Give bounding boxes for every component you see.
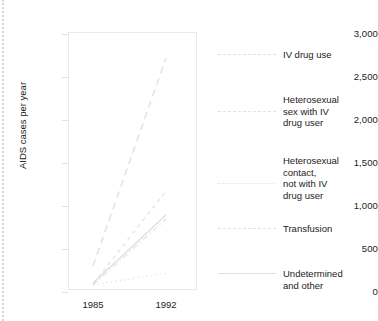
legend-swatch-medium-dash-icon [218,111,276,112]
legend-swatch-dash-dot-icon [218,228,276,229]
series-line-undetermined-and-other [93,215,166,283]
legend-label-undetermined-and-other: Undetermined and other [283,268,378,291]
x-tick-label-1992: 1992 [136,299,196,310]
x-tick-label-1985: 1985 [63,299,123,310]
legend-label-heterosexual-contact-not-with-iv-drug-user: Heterosexual contact, not with IV drug u… [283,155,378,201]
legend-swatch-solid-icon [218,273,276,274]
series-line-iv-drug-use [93,58,166,266]
series-line-heterosexual-sex-with-iv-drug-user [93,191,166,284]
data-series-layer [68,32,197,290]
legend-label-heterosexual-sex-with-iv-drug-user: Heterosexual sex with IV drug user [283,94,378,129]
legend: IV drug use Heterosexual sex with IV dru… [218,32,378,290]
legend-swatch-long-dash-icon [218,54,276,55]
aids-cases-line-chart: AIDS cases per year 3,000 2,500 2,000 1,… [0,0,378,321]
page-margin-dotted-rule [2,0,4,321]
y-tick-mark-0 [62,292,68,293]
legend-label-iv-drug-use: IV drug use [283,49,378,61]
legend-swatch-dotted-icon [218,183,276,184]
series-line-transfusion [93,219,166,285]
y-axis-title: AIDS cases per year [17,66,28,186]
legend-label-transfusion: Transfusion [283,223,378,235]
